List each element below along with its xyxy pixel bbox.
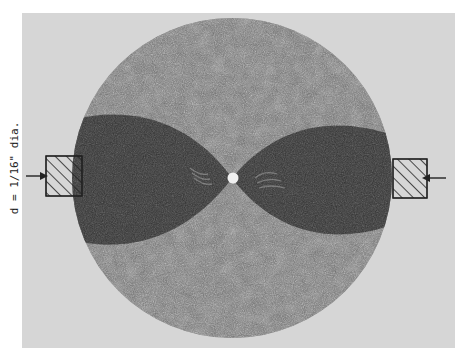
center-hole bbox=[228, 173, 239, 184]
figure-graphic bbox=[0, 0, 465, 355]
right-loading-block bbox=[393, 159, 427, 198]
left-loading-block bbox=[46, 156, 82, 196]
specimen-disc bbox=[72, 18, 392, 338]
left-load-arrow-icon bbox=[26, 172, 48, 180]
figure-caption: d = 1/16" dia. bbox=[8, 122, 21, 215]
